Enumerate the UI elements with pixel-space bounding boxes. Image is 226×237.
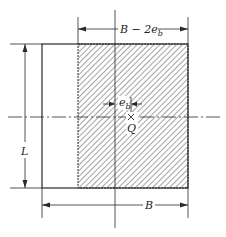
arrow-down-icon — [23, 180, 28, 188]
arrow-right-icon — [180, 203, 188, 208]
label-width: B — [144, 199, 153, 212]
arrow-left-icon — [42, 203, 50, 208]
label-length: L — [20, 145, 28, 158]
footing-diagram: B − 2eb eb Q L B — [0, 0, 226, 237]
label-top-dimension: B − 2eb — [119, 23, 163, 38]
arrow-right-icon — [180, 27, 188, 32]
arrow-left-icon — [78, 27, 86, 32]
label-load: Q — [127, 122, 136, 135]
arrow-up-icon — [23, 44, 28, 52]
